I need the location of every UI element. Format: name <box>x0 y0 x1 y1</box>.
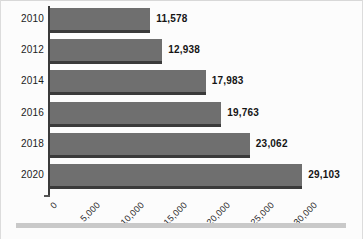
x-axis-tick-label: 5,000 <box>60 200 102 239</box>
footer-divider <box>16 223 346 228</box>
x-axis-tick-label: 10,000 <box>103 200 145 239</box>
y-axis-category-label: 2020 <box>2 169 44 180</box>
bar-value-label: 23,062 <box>256 138 288 149</box>
y-axis-category-label: 2010 <box>2 13 44 24</box>
bar-value-label: 19,763 <box>227 107 259 118</box>
bar <box>50 102 221 124</box>
bar-shadow-edge <box>50 30 150 33</box>
bar-shadow-edge <box>50 186 302 189</box>
x-axis-tick-label: 20,000 <box>190 200 232 239</box>
x-axis-tick-label: 30,000 <box>277 200 319 239</box>
bar <box>50 70 206 92</box>
bar <box>50 8 150 30</box>
y-axis-category-label: 2012 <box>2 44 44 55</box>
x-axis-tick-label: 0 <box>17 200 59 239</box>
bar <box>50 39 162 61</box>
x-axis-origin-tick <box>44 195 50 197</box>
bar <box>50 164 302 186</box>
bar-shadow-edge <box>50 124 221 127</box>
x-axis-tick-label: 15,000 <box>147 200 189 239</box>
bar-value-label: 29,103 <box>308 169 340 180</box>
x-axis-tick-label: 25,000 <box>233 200 275 239</box>
bar-value-label: 17,983 <box>212 75 244 86</box>
y-axis-category-label: 2016 <box>2 107 44 118</box>
bar-shadow-edge <box>50 61 162 64</box>
plot-area: 201011,578201212,938201417,983201619,763… <box>0 0 363 239</box>
bar-chart: 201011,578201212,938201417,983201619,763… <box>0 0 363 239</box>
bar-shadow-edge <box>50 155 250 158</box>
y-axis-category-label: 2014 <box>2 75 44 86</box>
bar-shadow-edge <box>50 92 206 95</box>
bar-value-label: 11,578 <box>156 13 187 24</box>
bar <box>50 133 250 155</box>
bar-value-label: 12,938 <box>168 44 200 55</box>
y-axis-category-label: 2018 <box>2 138 44 149</box>
